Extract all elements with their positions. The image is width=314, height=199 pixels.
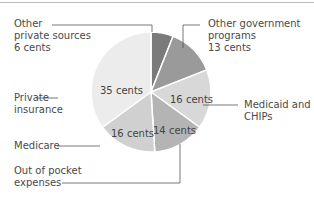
- label-medicaid: Medicaid and CHIPs: [244, 99, 311, 123]
- slice-label-out-of-pocket: 14 cents: [153, 125, 196, 136]
- label-private-insurance: Private insurance: [14, 92, 63, 116]
- label-medicare: Medicare: [14, 140, 60, 152]
- slice-label-medicare: 16 cents: [111, 128, 154, 139]
- slice-label-medicaid: 16 cents: [170, 94, 213, 105]
- label-other-private: Other private sources 6 cents: [14, 18, 91, 54]
- label-out-of-pocket: Out of pocket expenses: [14, 165, 82, 189]
- label-other-government: Other government programs 13 cents: [208, 18, 301, 54]
- slice-label-private: 35 cents: [100, 85, 143, 96]
